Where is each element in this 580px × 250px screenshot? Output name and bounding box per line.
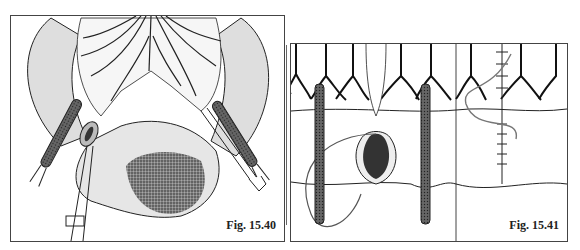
surgical-illustration-bowel-resection: [11, 16, 284, 241]
figure-caption: Fig. 15.40: [226, 218, 276, 233]
figure-15-41: Fig. 15.41: [290, 43, 568, 242]
figure-caption: Fig. 15.41: [509, 218, 559, 233]
surgical-illustration-suture-closure: [291, 44, 567, 241]
page-edge-line: [286, 45, 287, 225]
figure-15-40: Fig. 15.40: [10, 15, 285, 242]
